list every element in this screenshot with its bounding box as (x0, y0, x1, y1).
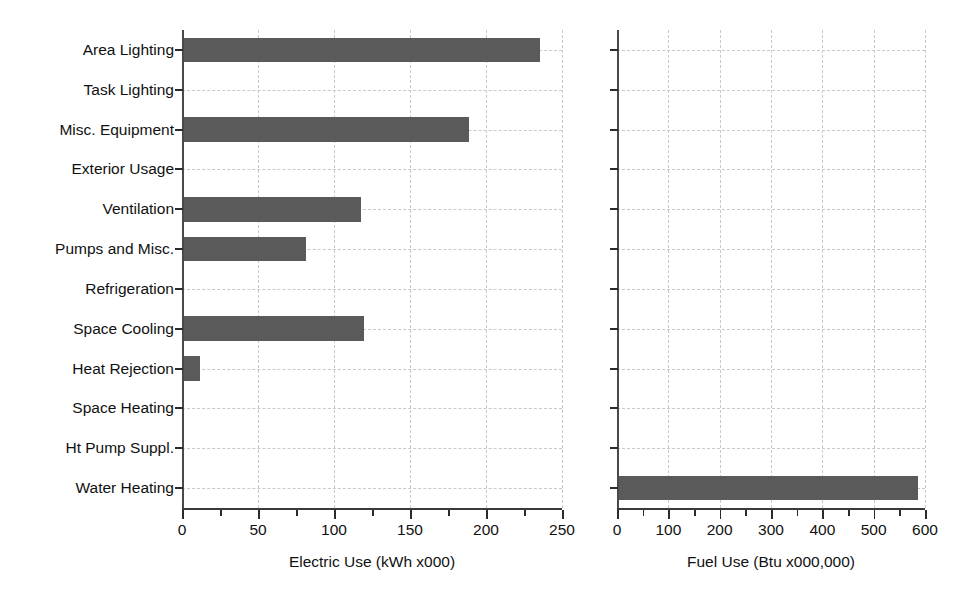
x-axis-tick-minor (899, 510, 901, 516)
category-label-refrigeration: Refrigeration (0, 281, 174, 297)
x-axis-tick-label: 0 (613, 522, 622, 538)
gridline-horizontal (182, 289, 562, 290)
category-label-heat-rejection: Heat Rejection (0, 361, 174, 377)
category-label-task-lighting: Task Lighting (0, 82, 174, 98)
gridline-vertical (562, 30, 563, 508)
x-axis-tick-label: 0 (178, 522, 187, 538)
category-label-pumps-and-misc: Pumps and Misc. (0, 241, 174, 257)
x-axis-tick-major (562, 510, 564, 519)
y-axis-tick (610, 89, 618, 91)
gridline-horizontal (617, 90, 925, 91)
x-axis-tick-major (486, 510, 488, 519)
fuel-use-plot (617, 30, 925, 508)
bar-space-cooling (183, 316, 364, 341)
x-axis-tick-label: 500 (861, 522, 887, 538)
x-axis-tick-label: 200 (707, 522, 733, 538)
gridline-horizontal (182, 448, 562, 449)
gridline-horizontal (182, 169, 562, 170)
x-axis-title-electric: Electric Use (kWh x000) (289, 553, 455, 571)
bar-heat-rejection (183, 356, 200, 381)
plot-background (182, 30, 562, 508)
x-axis-tick-major (334, 510, 336, 519)
category-label-space-heating: Space Heating (0, 400, 174, 416)
y-axis-tick (175, 487, 183, 489)
y-axis-tick (610, 288, 618, 290)
x-axis-tick-major (822, 510, 824, 519)
x-axis-tick-label: 100 (655, 522, 681, 538)
bar-misc-equipment (183, 117, 469, 142)
y-axis-tick (610, 129, 618, 131)
gridline-horizontal (617, 50, 925, 51)
gridline-horizontal (617, 329, 925, 330)
y-axis-tick (175, 368, 183, 370)
x-axis-tick-minor (296, 510, 298, 516)
x-axis-spine (182, 508, 562, 510)
y-axis-spine (182, 30, 184, 508)
y-axis-tick (175, 447, 183, 449)
x-axis-tick-major (617, 510, 619, 519)
y-axis-tick (175, 248, 183, 250)
y-axis-tick (175, 328, 183, 330)
x-axis-tick-major (258, 510, 260, 519)
x-axis-tick-minor (448, 510, 450, 516)
y-axis-tick (610, 248, 618, 250)
gridline-vertical (486, 30, 487, 508)
electric-use-plot (182, 30, 562, 508)
gridline-horizontal (617, 408, 925, 409)
x-axis-tick-major (720, 510, 722, 519)
x-axis-tick-major (771, 510, 773, 519)
y-axis-tick (610, 328, 618, 330)
gridline-horizontal (617, 130, 925, 131)
bar-ventilation (183, 197, 361, 222)
x-axis-tick-label: 600 (912, 522, 938, 538)
y-axis-tick (610, 407, 618, 409)
gridline-horizontal (182, 90, 562, 91)
gridline-horizontal (182, 408, 562, 409)
category-label-water-heating: Water Heating (0, 480, 174, 496)
category-label-area-lighting: Area Lighting (0, 42, 174, 58)
gridline-vertical (720, 30, 721, 508)
x-axis-tick-label: 300 (758, 522, 784, 538)
category-label-space-cooling: Space Cooling (0, 321, 174, 337)
x-axis-tick-major (410, 510, 412, 519)
x-axis-tick-minor (745, 510, 747, 516)
gridline-vertical (668, 30, 669, 508)
x-axis-tick-minor (524, 510, 526, 516)
y-axis-tick (175, 129, 183, 131)
gridline-vertical (822, 30, 823, 508)
y-axis-tick (175, 288, 183, 290)
y-axis-spine (617, 30, 619, 508)
x-axis-tick-major (874, 510, 876, 519)
x-axis-tick-label: 200 (473, 522, 499, 538)
category-label-misc-equipment: Misc. Equipment (0, 122, 174, 138)
x-axis-tick-minor (848, 510, 850, 516)
x-axis-tick-minor (220, 510, 222, 516)
gridline-horizontal (617, 249, 925, 250)
category-label-ht-pump-suppl: Ht Pump Suppl. (0, 440, 174, 456)
y-axis-tick (175, 407, 183, 409)
gridline-horizontal (182, 369, 562, 370)
x-axis-tick-major (668, 510, 670, 519)
x-axis-tick-label: 400 (809, 522, 835, 538)
gridline-horizontal (617, 169, 925, 170)
gridline-vertical (258, 30, 259, 508)
x-axis-tick-major (182, 510, 184, 519)
chart-canvas: Area LightingTask LightingMisc. Equipmen… (0, 0, 980, 604)
x-axis-tick-label: 50 (249, 522, 266, 538)
category-label-exterior-usage: Exterior Usage (0, 161, 174, 177)
bar-pumps-and-misc (183, 237, 306, 262)
y-axis-tick (610, 208, 618, 210)
bar-water-heating (618, 476, 918, 501)
gridline-vertical (925, 30, 926, 508)
x-axis-tick-label: 250 (549, 522, 575, 538)
category-label-ventilation: Ventilation (0, 201, 174, 217)
gridline-horizontal (182, 488, 562, 489)
gridline-vertical (771, 30, 772, 508)
category-axis-labels: Area LightingTask LightingMisc. Equipmen… (0, 30, 174, 508)
x-axis-title-fuel: Fuel Use (Btu x000,000) (687, 553, 855, 571)
x-axis-tick-major (925, 510, 927, 519)
y-axis-tick (175, 168, 183, 170)
y-axis-tick (610, 368, 618, 370)
y-axis-tick (610, 487, 618, 489)
x-axis-tick-label: 100 (321, 522, 347, 538)
